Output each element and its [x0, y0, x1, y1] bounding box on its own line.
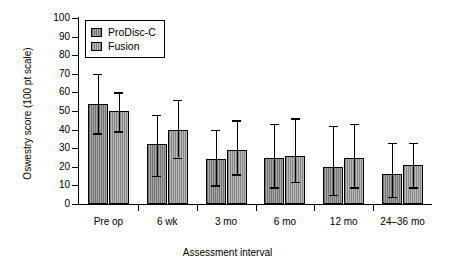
- y-axis-tick: [72, 92, 78, 93]
- y-axis-tick-label: 70: [44, 69, 70, 79]
- y-axis-tick-label: 40: [44, 125, 70, 135]
- error-bar-cap-lower: [232, 174, 241, 175]
- error-bar-cap-lower: [211, 185, 220, 186]
- error-bar-line: [98, 74, 99, 134]
- y-axis-tick: [72, 185, 78, 186]
- legend-label-prodisc-c: ProDisc-C: [108, 27, 156, 38]
- x-axis-title: Assessment interval: [0, 247, 455, 258]
- error-bar-cap-upper: [114, 92, 123, 93]
- x-axis-category-label: 12 mo: [314, 216, 373, 227]
- x-axis-tick: [373, 205, 374, 211]
- bar-chart: Oswestry score (100 pt scale) Assessment…: [0, 0, 455, 269]
- error-bar-line: [274, 124, 275, 187]
- x-axis-category-label: 3 mo: [197, 216, 256, 227]
- error-bar-line: [333, 126, 334, 195]
- error-bar-line: [354, 124, 355, 187]
- y-axis-tick: [72, 130, 78, 131]
- y-axis-tick-label: 0: [44, 199, 70, 209]
- x-axis-tick: [314, 205, 315, 211]
- error-bar-line: [237, 120, 238, 174]
- error-bar-cap-lower: [388, 197, 397, 198]
- y-axis-tick-label: 50: [44, 106, 70, 116]
- x-axis-tick: [138, 205, 139, 211]
- error-bar-cap-upper: [93, 74, 102, 75]
- error-bar-cap-upper: [211, 130, 220, 131]
- x-axis-category-label: 24–36 mo: [373, 216, 432, 227]
- legend-swatch-icon-prodisc-c: [91, 28, 102, 37]
- y-axis-tick-label: 60: [44, 87, 70, 97]
- y-axis-tick: [72, 167, 78, 168]
- error-bar-line: [178, 100, 179, 158]
- error-bar-cap-lower: [173, 158, 182, 159]
- error-bar-cap-lower: [270, 187, 279, 188]
- y-axis-tick: [72, 37, 78, 38]
- error-bar-cap-upper: [152, 115, 161, 116]
- error-bar-cap-upper: [350, 124, 359, 125]
- y-axis-tick-label: 10: [44, 180, 70, 190]
- legend-swatch-icon-fusion: [91, 42, 102, 51]
- y-axis-tick: [72, 55, 78, 56]
- error-bar-cap-upper: [232, 120, 241, 121]
- y-axis-tick: [72, 18, 78, 19]
- legend-label-fusion: Fusion: [108, 41, 140, 52]
- error-bar-cap-lower: [409, 187, 418, 188]
- y-axis-tick-label: 30: [44, 143, 70, 153]
- x-axis-tick: [197, 205, 198, 211]
- error-bar-line: [216, 130, 217, 186]
- error-bar-cap-upper: [173, 100, 182, 101]
- y-axis-tick: [72, 204, 78, 205]
- error-bar-line: [413, 143, 414, 188]
- x-axis-category-label: Pre op: [79, 216, 138, 227]
- error-bar-cap-upper: [329, 126, 338, 127]
- error-bar-cap-upper: [388, 143, 397, 144]
- error-bar-cap-lower: [291, 182, 300, 183]
- x-axis-tick: [256, 205, 257, 211]
- error-bar-cap-lower: [93, 133, 102, 134]
- y-axis-tick: [72, 74, 78, 75]
- x-axis-category-label: 6 wk: [138, 216, 197, 227]
- y-axis-tick: [72, 148, 78, 149]
- y-axis-tick: [72, 111, 78, 112]
- y-axis-title: Oswestry score (100 pt scale): [22, 19, 33, 209]
- y-axis-tick-label: 90: [44, 32, 70, 42]
- legend-item-prodisc-c: ProDisc-C: [91, 25, 156, 39]
- error-bar-cap-lower: [152, 176, 161, 177]
- error-bar-cap-upper: [291, 118, 300, 119]
- error-bar-cap-upper: [270, 124, 279, 125]
- error-bar-cap-lower: [114, 131, 123, 132]
- error-bar-line: [392, 143, 393, 197]
- y-axis-tick-label: 80: [44, 50, 70, 60]
- error-bar-cap-upper: [409, 143, 418, 144]
- chart-legend: ProDisc-C Fusion: [85, 20, 165, 58]
- error-bar-line: [119, 92, 120, 131]
- error-bar-cap-lower: [329, 195, 338, 196]
- y-axis-tick-label: 100: [44, 13, 70, 23]
- error-bar-line: [157, 115, 158, 176]
- x-axis-category-label: 6 mo: [256, 216, 315, 227]
- error-bar-line: [295, 118, 296, 181]
- legend-item-fusion: Fusion: [91, 39, 156, 53]
- y-axis-tick-label: 20: [44, 162, 70, 172]
- error-bar-cap-lower: [350, 187, 359, 188]
